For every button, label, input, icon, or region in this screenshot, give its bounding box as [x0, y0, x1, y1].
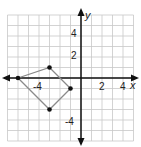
- coordinate-plane: y x 4 2 -4 -4 2 4: [0, 0, 141, 147]
- y-tick-label-2: 2: [71, 50, 77, 61]
- vertex-point: [16, 76, 21, 81]
- y-axis-arrow-up: [78, 8, 85, 16]
- vertex-point: [47, 65, 52, 70]
- x-tick-label-2: 2: [99, 81, 105, 92]
- vertex-point: [47, 107, 52, 112]
- x-axis-label: x: [129, 79, 136, 91]
- y-tick-label-neg4: -4: [65, 116, 74, 127]
- y-tick-label-4: 4: [71, 28, 77, 39]
- x-tick-label-4: 4: [120, 81, 126, 92]
- x-tick-label-neg4: -4: [33, 81, 42, 92]
- y-axis-arrow-down: [78, 138, 85, 146]
- x-axis-arrow-left: [2, 75, 10, 82]
- vertex-point: [68, 86, 73, 91]
